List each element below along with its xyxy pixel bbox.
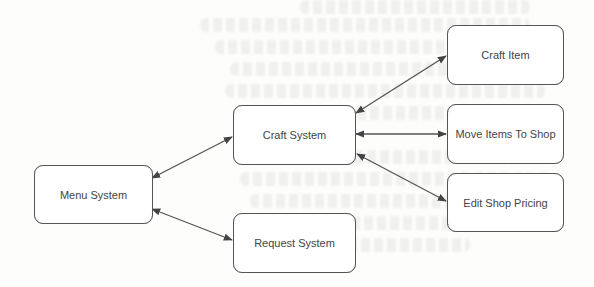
node-label: Edit Shop Pricing [463, 197, 547, 209]
node-request-system: Request System [233, 213, 356, 273]
node-move-items-to-shop: Move Items To Shop [447, 104, 564, 164]
edge-menu-request-system [152, 209, 232, 240]
node-label: Request System [254, 237, 335, 249]
edge-craft-system-edit-pricing [357, 154, 446, 201]
node-label: Craft System [263, 129, 327, 141]
node-label: Menu System [60, 189, 127, 201]
node-edit-shop-pricing: Edit Shop Pricing [447, 173, 564, 232]
node-label: Craft Item [481, 49, 529, 61]
edge-craft-system-craft-item [356, 56, 446, 113]
node-menu-system: Menu System [34, 165, 153, 224]
node-craft-system: Craft System [233, 105, 356, 165]
edge-menu-craft-system [152, 137, 232, 178]
node-craft-item: Craft Item [447, 25, 564, 85]
node-label: Move Items To Shop [455, 128, 555, 140]
